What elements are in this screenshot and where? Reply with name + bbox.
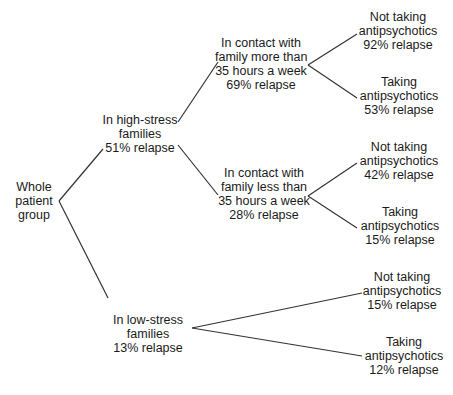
leaf-less-not-taking: Not taking antipsychotics 42% relapse: [357, 140, 441, 182]
leaf-low-not-taking: Not taking antipsychotics 15% relapse: [360, 270, 444, 312]
leaf-less-taking: Taking antipsychotics 15% relapse: [358, 205, 442, 247]
leaf-more-taking: Taking antipsychotics 53% relapse: [357, 75, 441, 117]
node-contact-more: In contact with family more than 35 hour…: [215, 36, 307, 92]
edge-more-taking: [308, 65, 357, 98]
node-contact-less: In contact with family less than 35 hour…: [218, 166, 310, 222]
edge-low-taking: [192, 328, 362, 356]
edge-high-less: [178, 145, 218, 195]
edge-root-high: [59, 149, 103, 201]
leaf-more-not-taking: Not taking antipsychotics 92% relapse: [356, 10, 440, 52]
edge-high-more: [178, 62, 218, 122]
edge-root-low: [59, 201, 108, 298]
edge-less-not: [308, 163, 357, 196]
edge-less-taking: [308, 196, 357, 228]
root-node: Whole patient group: [14, 180, 54, 222]
leaf-low-taking: Taking antipsychotics 12% relapse: [362, 335, 446, 377]
node-low-stress: In low-stress families 13% relapse: [105, 313, 191, 355]
edge-more-not: [308, 34, 357, 65]
node-high-stress: In high-stress families 51% relapse: [100, 113, 180, 155]
edge-low-not: [192, 293, 362, 328]
